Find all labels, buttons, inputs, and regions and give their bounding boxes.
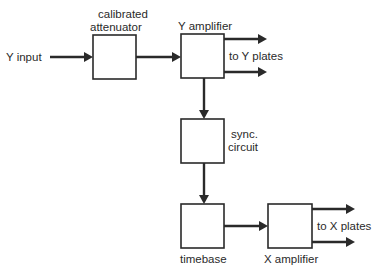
yamp-to-sync-arrow (199, 78, 209, 119)
attenuator-to-yamp-arrow (136, 52, 181, 62)
x-amplifier-block (268, 204, 312, 248)
y-input-arrow (50, 52, 93, 62)
y-plates-label: to Y plates (229, 50, 283, 62)
timebase-to-xamp-arrow (224, 221, 268, 231)
x-amplifier-label: X amplifier (264, 253, 318, 265)
sync-to-timebase-arrow (199, 163, 209, 204)
timebase-block (181, 204, 224, 248)
sync-circuit-block (181, 119, 224, 163)
attenuator-block (93, 35, 136, 79)
attenuator-label-line1: calibrated (98, 8, 148, 20)
x-plates-label: to X plates (317, 220, 372, 232)
x-plates-lower-arrow (312, 237, 355, 247)
sync-label-line2: circuit (228, 141, 259, 153)
y-plates-lower-arrow (224, 67, 267, 77)
y-plates-upper-arrow (224, 34, 267, 44)
y-input-label: Y input (6, 51, 42, 63)
oscilloscope-block-diagram: Y input calibrated attenuator Y amplifie… (0, 0, 377, 274)
attenuator-label-line2: attenuator (90, 21, 142, 33)
y-amplifier-label: Y amplifier (178, 20, 232, 32)
timebase-label: timebase (180, 253, 227, 265)
sync-label-line1: sync. (231, 128, 258, 140)
x-plates-upper-arrow (312, 204, 355, 214)
y-amplifier-block (181, 34, 224, 78)
